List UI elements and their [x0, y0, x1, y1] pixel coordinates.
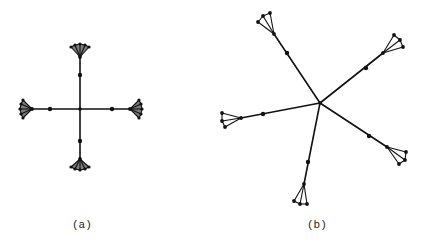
leaf-node [19, 112, 22, 115]
leaf-node [220, 111, 224, 115]
intermediate-node [110, 107, 114, 111]
fan-apex-node [272, 32, 276, 36]
leaf-node [292, 199, 296, 203]
hub-node [78, 107, 82, 111]
leaf-node [137, 116, 140, 119]
leaf-node [78, 168, 81, 171]
fan-apex-node [78, 157, 82, 161]
leaf-node [69, 45, 72, 48]
fan-edge [304, 184, 307, 204]
caption-a: (a) [72, 219, 92, 231]
hub-node [318, 101, 322, 105]
leaf-node [268, 11, 272, 15]
leaf-node [87, 165, 90, 168]
leaf-node [137, 98, 140, 101]
leaf-node [83, 43, 86, 46]
leaf-node [401, 45, 405, 49]
leaf-node [223, 125, 227, 129]
leaf-node [398, 38, 402, 42]
leaf-node [305, 202, 309, 206]
fan-edge [222, 113, 241, 118]
leaf-node [404, 150, 408, 154]
leaf-node [140, 107, 143, 110]
intermediate-node [285, 51, 289, 55]
tree-edge [320, 53, 383, 103]
intermediate-node [78, 73, 82, 77]
leaf-node [139, 112, 142, 115]
leaf-node [397, 162, 401, 166]
tree-edge [241, 103, 320, 118]
fan-apex-node [128, 107, 132, 111]
intermediate-node [261, 112, 265, 116]
tree-edge [274, 34, 320, 103]
leaf-node [83, 167, 86, 170]
tree-edge [320, 103, 387, 147]
leaf-node [19, 102, 22, 105]
leaf-node [392, 33, 396, 37]
intermediate-node [364, 66, 368, 70]
leaf-node [87, 45, 90, 48]
fan-apex-node [239, 116, 243, 120]
leaf-node [73, 43, 76, 46]
tree-diagram [0, 0, 427, 244]
leaf-node [73, 167, 76, 170]
fan-apex-node [30, 107, 34, 111]
intermediate-node [48, 107, 52, 111]
leaf-node [21, 116, 24, 119]
caption-b: (b) [307, 219, 327, 231]
fan-apex-node [381, 51, 385, 55]
fan-apex-node [385, 145, 389, 149]
intermediate-node [306, 160, 310, 164]
fan-edge [383, 40, 400, 53]
leaf-node [21, 98, 24, 101]
leaf-node [18, 107, 21, 110]
leaf-node [69, 165, 72, 168]
leaf-node [139, 102, 142, 105]
panel-a-cross-tree [18, 42, 143, 171]
leaf-node [261, 14, 265, 18]
fan-apex-node [302, 182, 306, 186]
leaf-node [298, 202, 302, 206]
intermediate-node [367, 134, 371, 138]
leaf-node [403, 158, 407, 162]
leaf-node [78, 42, 81, 45]
intermediate-node [78, 139, 82, 143]
leaf-node [256, 20, 260, 24]
fan-apex-node [78, 55, 82, 59]
tree-edge [304, 103, 320, 184]
panel-b-star-tree [220, 11, 408, 206]
leaf-node [220, 119, 224, 123]
